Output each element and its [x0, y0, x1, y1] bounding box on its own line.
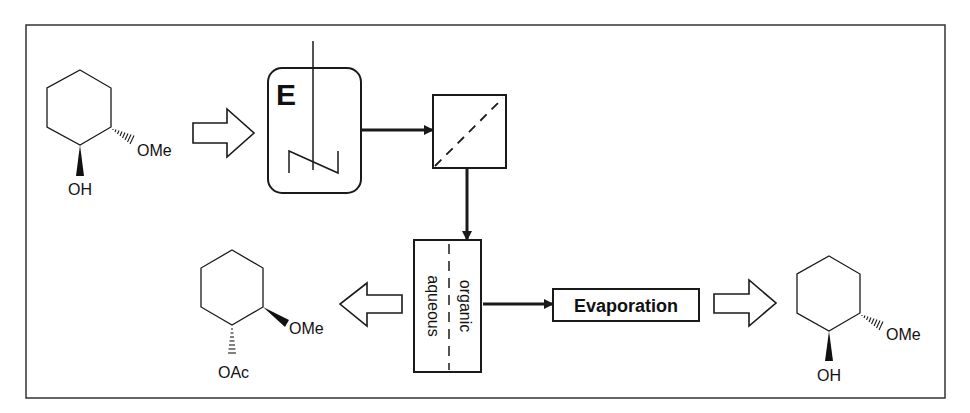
ome-label: OMe — [886, 326, 921, 343]
ome-label: OMe — [289, 320, 324, 337]
oh-label: OH — [817, 367, 841, 384]
hashed-bond — [113, 129, 134, 144]
separator: aqueous organic — [414, 240, 481, 372]
process-diagram: OMe OH E aqueous organic — [0, 0, 970, 413]
cyclohexane-ring — [47, 70, 111, 145]
hollow-arrow-left-icon — [340, 283, 402, 326]
hashed-bond — [862, 315, 883, 330]
oac-label: OAc — [218, 364, 249, 381]
diagram-frame — [26, 25, 945, 398]
enzyme-label: E — [276, 78, 296, 111]
evaporation-unit: Evaporation — [553, 289, 699, 321]
wedge-bond — [263, 307, 289, 327]
wedge-bond — [825, 331, 833, 361]
acetate-product-molecule — [201, 250, 289, 353]
hollow-arrow-right-icon — [714, 280, 776, 326]
oh-label: OH — [68, 181, 92, 198]
cyclohexane-ring — [201, 250, 263, 325]
alcohol-product-molecule — [797, 256, 883, 361]
hashed-bond — [228, 329, 236, 353]
cyclohexane-ring — [797, 256, 860, 331]
reactor: E — [268, 41, 361, 193]
hollow-arrow-right-icon — [193, 109, 254, 157]
starting-material-molecule — [47, 70, 134, 176]
evaporation-label: Evaporation — [574, 296, 678, 316]
wedge-bond — [76, 145, 84, 176]
filter — [433, 95, 506, 168]
phase-label-aqueous: aqueous — [425, 275, 442, 336]
phase-label-organic: organic — [457, 280, 474, 332]
ome-label: OMe — [137, 142, 172, 159]
